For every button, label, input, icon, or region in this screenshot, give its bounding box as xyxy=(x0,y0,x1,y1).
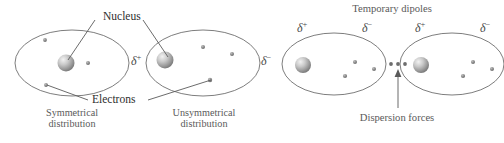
atom-unsymmetrical xyxy=(146,30,260,96)
electrons-label: Electrons xyxy=(92,93,135,105)
delta-minus-dipole-1: δ− xyxy=(362,22,372,35)
atom-dipole-2 xyxy=(400,33,504,95)
symmetrical-caption-line2: distribution xyxy=(46,119,98,130)
delta-sign: + xyxy=(137,52,142,62)
electron-dot xyxy=(353,60,357,64)
symmetrical-caption: Symmetrical distribution xyxy=(46,108,98,129)
atom-dipole-1 xyxy=(282,33,386,95)
electron-dot xyxy=(372,67,376,71)
delta-sign: − xyxy=(486,19,491,29)
dispersion-forces-diagram: Nucleus Electrons δ+ δ− Symmetrical dist… xyxy=(0,0,504,143)
unsymmetrical-caption-line2: distribution xyxy=(173,119,236,130)
delta-sign: − xyxy=(267,52,272,62)
electron-dot xyxy=(86,61,90,65)
interaction-dots xyxy=(389,62,407,66)
delta-plus-unsymmetrical: δ+ xyxy=(131,55,141,68)
nucleus-sphere xyxy=(295,57,311,73)
dispersion-forces-arrow xyxy=(395,69,402,108)
interaction-dot xyxy=(396,62,400,66)
delta-sign: − xyxy=(368,19,373,29)
temporary-dipoles-label: Temporary dipoles xyxy=(352,3,432,14)
delta-plus-dipole-2: δ+ xyxy=(415,22,425,35)
interaction-dot xyxy=(389,62,393,66)
nucleus-sphere xyxy=(157,52,174,69)
electrons-leader-left xyxy=(47,85,88,100)
dispersion-forces-label: Dispersion forces xyxy=(360,112,434,123)
delta-minus-unsymmetrical: δ− xyxy=(261,55,271,68)
nucleus-label: Nucleus xyxy=(103,10,141,22)
electron-dot xyxy=(201,45,205,49)
delta-sign: + xyxy=(303,19,308,29)
electron-dot xyxy=(43,38,47,42)
electron-dot xyxy=(230,52,234,56)
electron-dot xyxy=(471,60,475,64)
electron-dot xyxy=(461,74,465,78)
delta-plus-dipole-1: δ+ xyxy=(297,22,307,35)
electron-dot xyxy=(490,67,494,71)
arrow-head xyxy=(395,69,402,77)
nucleus-leader-lines xyxy=(68,20,168,60)
delta-minus-dipole-2: δ− xyxy=(480,22,490,35)
unsymmetrical-caption: Unsymmetrical distribution xyxy=(173,108,236,129)
electron-dot xyxy=(343,74,347,78)
nucleus-leader-left xyxy=(68,20,95,60)
nucleus-sphere xyxy=(58,55,75,72)
nucleus-sphere xyxy=(413,57,429,73)
delta-sign: + xyxy=(421,19,426,29)
interaction-dot xyxy=(403,62,407,66)
atom-symmetrical xyxy=(15,30,129,96)
